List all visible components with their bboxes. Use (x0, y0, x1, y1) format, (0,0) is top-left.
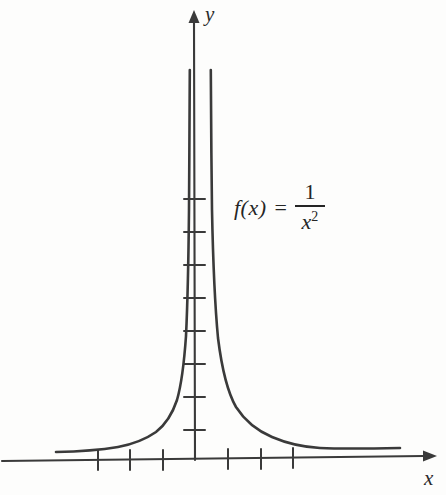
curve-right-branch (211, 70, 400, 449)
plot-canvas (0, 0, 446, 495)
function-formula-annotation: f(x) = 1 x2 (234, 182, 325, 234)
y-axis-arrowhead (189, 10, 200, 23)
formula-denominator: x2 (296, 207, 325, 233)
formula-denominator-base: x (302, 209, 312, 234)
formula-function-name: f(x) (234, 195, 267, 221)
x-axis-label: x (424, 466, 433, 491)
formula-fraction: 1 x2 (295, 181, 325, 233)
y-axis-label: y (205, 2, 214, 27)
formula-denominator-exponent: 2 (311, 209, 318, 224)
formula-equals-sign: = (275, 195, 287, 221)
x-axis-line (2, 456, 424, 461)
curve-left-branch (56, 70, 190, 452)
y-axis-line (194, 22, 195, 460)
function-graph-figure: y x f(x) = 1 x2 (0, 0, 446, 495)
x-axis-arrowhead (423, 451, 437, 462)
formula-numerator: 1 (298, 181, 321, 205)
